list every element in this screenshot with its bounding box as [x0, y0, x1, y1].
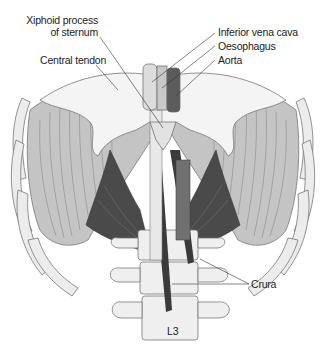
label-central-tendon: Central tendon — [40, 54, 106, 66]
diaphragm-illustration — [0, 0, 326, 348]
great-vessels — [143, 64, 180, 112]
label-crura: Crura — [251, 278, 276, 290]
label-l3-vertebra: L3 — [167, 325, 178, 337]
diaphragm-diagram: Xiphoid process of sternum Central tendo… — [0, 0, 326, 348]
label-aorta: Aorta — [218, 54, 242, 66]
label-oesophagus: Oesophagus — [218, 40, 276, 52]
label-xiphoid-line1: Xiphoid process — [22, 14, 98, 26]
aorta-tube-lower — [176, 160, 190, 240]
label-xiphoid-line2: of sternum — [22, 26, 98, 38]
label-xiphoid-process: Xiphoid process of sternum — [22, 14, 98, 38]
label-inferior-vena-cava: Inferior vena cava — [218, 26, 298, 38]
